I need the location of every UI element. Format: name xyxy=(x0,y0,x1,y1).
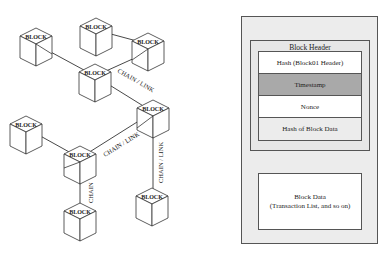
svg-text:BLOCK: BLOCK xyxy=(141,194,163,200)
block-cube-d: BLOCK xyxy=(79,64,111,102)
block-cube-a: BLOCK xyxy=(20,28,52,66)
field-prev-hash: Hash (Block01 Header) xyxy=(259,52,361,74)
chain-link-label-1: CHAIN / LINK xyxy=(117,67,156,94)
svg-text:BLOCK: BLOCK xyxy=(15,122,37,128)
svg-text:BLOCK: BLOCK xyxy=(69,209,91,215)
svg-text:BLOCK: BLOCK xyxy=(142,106,164,112)
block-data-subtitle: (Transaction List, and so on) xyxy=(270,202,350,211)
block-cube-g: BLOCK xyxy=(64,146,96,184)
chain-label: CHAIN xyxy=(87,182,94,203)
block-cube-h: BLOCK xyxy=(64,203,96,241)
block-data-title: Block Data xyxy=(294,193,326,202)
svg-text:BLOCK: BLOCK xyxy=(25,34,47,40)
chain-link-label-3: CHAIN / LINK xyxy=(157,142,164,183)
block-cube-e: BLOCK xyxy=(137,100,169,138)
svg-text:BLOCK: BLOCK xyxy=(69,152,91,158)
block-cube-c: BLOCK xyxy=(132,33,164,71)
block-cube-i: BLOCK xyxy=(136,188,168,226)
block-header-box: Block Header Hash (Block01 Header) Times… xyxy=(250,40,370,151)
chain-link-label-2: CHAIN / LINK xyxy=(102,130,141,158)
block-cube-f: BLOCK xyxy=(10,116,42,154)
block-cube-b: BLOCK xyxy=(80,18,112,56)
svg-text:BLOCK: BLOCK xyxy=(84,70,106,76)
field-data-hash: Hash of Block Data xyxy=(259,118,361,140)
blockchain-network-diagram: BLOCK BLOCK BLOCK BLOCK BLOCK BLOCK BLOC… xyxy=(0,0,240,254)
block-header-fields: Hash (Block01 Header) Timestamp Nonce Ha… xyxy=(258,51,362,141)
svg-text:BLOCK: BLOCK xyxy=(137,39,159,45)
field-nonce: Nonce xyxy=(259,96,361,118)
svg-text:BLOCK: BLOCK xyxy=(85,24,107,30)
field-timestamp: Timestamp xyxy=(259,74,361,96)
block-data-box: Block Data (Transaction List, and so on) xyxy=(258,173,362,230)
